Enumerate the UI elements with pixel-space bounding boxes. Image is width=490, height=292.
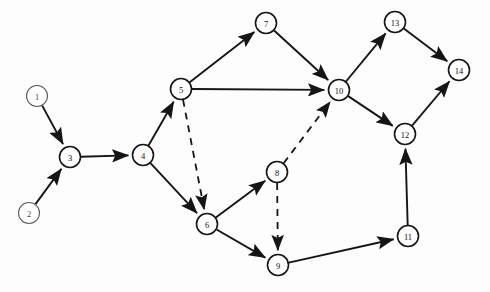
edge-8-to-10 [284, 102, 331, 163]
directed-graph-figure: 1234567891011121314 [0, 0, 490, 292]
edge-13-to-14 [404, 29, 447, 62]
node-circle-12[interactable] [395, 124, 416, 145]
edge-1-to-3 [42, 106, 63, 144]
node-7[interactable]: 7 [256, 13, 277, 34]
node-circle-6[interactable] [197, 214, 218, 235]
node-6[interactable]: 6 [197, 214, 218, 235]
edge-5-to-7 [190, 32, 255, 82]
node-13[interactable]: 13 [385, 12, 406, 33]
edge-8-to-9 [277, 183, 278, 250]
node-circle-2[interactable] [19, 203, 40, 224]
node-circle-4[interactable] [133, 145, 154, 166]
edge-12-to-14 [412, 81, 449, 125]
edge-6-to-8 [216, 181, 265, 218]
edge-layer [36, 29, 450, 263]
edge-11-to-12 [405, 149, 407, 225]
edge-10-to-13 [346, 33, 386, 81]
node-circle-13[interactable] [385, 12, 406, 33]
node-5[interactable]: 5 [171, 79, 192, 100]
node-layer: 1234567891011121314 [19, 12, 470, 276]
edge-9-to-11 [289, 239, 394, 262]
node-9[interactable]: 9 [268, 255, 289, 276]
node-14[interactable]: 14 [449, 60, 470, 81]
edge-2-to-3 [36, 169, 62, 204]
node-circle-9[interactable] [268, 255, 289, 276]
edge-5-to-10 [192, 89, 324, 90]
node-10[interactable]: 10 [329, 80, 350, 101]
node-1[interactable]: 1 [27, 86, 48, 107]
node-3[interactable]: 3 [60, 147, 81, 168]
node-11[interactable]: 11 [398, 226, 419, 247]
node-circle-14[interactable] [449, 60, 470, 81]
graph-canvas: 1234567891011121314 [0, 0, 490, 292]
edge-5-to-6 [183, 100, 204, 210]
node-8[interactable]: 8 [267, 162, 288, 183]
edge-4-to-6 [150, 163, 197, 213]
node-circle-3[interactable] [60, 147, 81, 168]
node-circle-8[interactable] [267, 162, 288, 183]
node-circle-7[interactable] [256, 13, 277, 34]
edge-4-to-5 [148, 102, 173, 146]
node-circle-11[interactable] [398, 226, 419, 247]
node-4[interactable]: 4 [133, 145, 154, 166]
node-circle-1[interactable] [27, 86, 48, 107]
edge-6-to-9 [217, 230, 266, 258]
edge-10-to-12 [348, 96, 393, 126]
node-circle-5[interactable] [171, 79, 192, 100]
node-12[interactable]: 12 [395, 124, 416, 145]
node-2[interactable]: 2 [19, 203, 40, 224]
node-circle-10[interactable] [329, 80, 350, 101]
edge-7-to-10 [274, 30, 328, 80]
edge-3-to-4 [81, 155, 128, 156]
